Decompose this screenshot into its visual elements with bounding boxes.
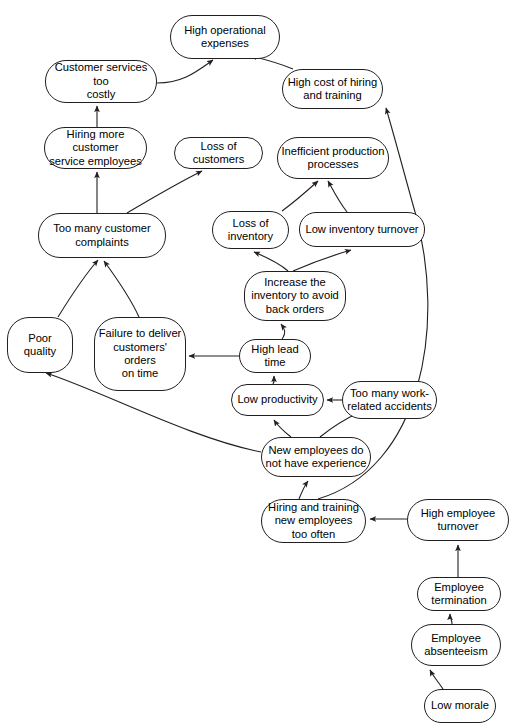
edge-absenteeism-to-termination (450, 614, 452, 624)
edge-low-morale-to-absenteeism (430, 670, 443, 689)
edge-low-productivity-to-high-lead-time (273, 376, 274, 384)
node-label: Low productivity (237, 393, 317, 406)
node-label: Poor quality (11, 332, 69, 359)
node-poor-quality[interactable]: Poor quality (7, 317, 73, 373)
node-label: Loss of customers (178, 140, 259, 167)
node-label: Low inventory turnover (305, 223, 418, 236)
edge-loss-inventory-to-inefficient (282, 181, 318, 211)
edge-poor-quality-to-complaints (58, 260, 98, 317)
edge-increase-inventory-to-loss-inventory (254, 252, 288, 271)
node-high-employee-turnover[interactable]: High employee turnover (407, 499, 509, 541)
node-label: Too many work- related accidents (347, 387, 432, 414)
node-high-operational-expenses[interactable]: High operational expenses (170, 15, 280, 59)
node-inefficient-production-processes[interactable]: Inefficient production processes (277, 137, 389, 179)
node-label: Inefficient production processes (281, 145, 384, 172)
node-label: High employee turnover (421, 507, 496, 534)
node-label: Low morale (431, 699, 489, 712)
node-low-morale[interactable]: Low morale (424, 689, 496, 723)
node-high-lead-time[interactable]: High lead time (239, 339, 311, 373)
node-label: Customer services too costly (49, 61, 153, 101)
node-increase-the-inventory-to-avoid-back-orders[interactable]: Increase the inventory to avoid back ord… (244, 271, 346, 321)
node-hiring-and-training-new-employees-too-often[interactable]: Hiring and training new employees too of… (261, 499, 366, 543)
edge-high-lead-time-to-increase-inventory (281, 324, 285, 339)
node-label: Hiring more customer service employees (48, 128, 143, 168)
node-loss-of-inventory[interactable]: Loss of inventory (212, 211, 289, 249)
node-label: High operational expenses (184, 24, 265, 51)
node-label: Loss of inventory (228, 217, 273, 244)
edge-new-employees-to-low-productivity (274, 420, 291, 437)
node-high-cost-of-hiring-and-training[interactable]: High cost of hiring and training (282, 69, 383, 109)
node-new-employees-do-not-have-experience[interactable]: New employees do not have experience (261, 437, 371, 477)
node-label: Hiring and training new employees too of… (268, 501, 359, 541)
node-label: High cost of hiring and training (288, 76, 378, 103)
node-customer-services-too-costly[interactable]: Customer services too costly (45, 60, 157, 103)
node-label: Employee absenteeism (424, 632, 487, 659)
edge-hiring-training-to-new-employees (299, 481, 308, 499)
node-label: Too many customer complaints (53, 222, 151, 249)
edge-customer-services-to-expenses (157, 60, 213, 83)
node-low-inventory-turnover[interactable]: Low inventory turnover (299, 212, 425, 247)
node-label: High lead time (251, 343, 298, 370)
node-hiring-more-customer-service-employees[interactable]: Hiring more customer service employees (44, 127, 147, 169)
node-employee-absenteeism[interactable]: Employee absenteeism (411, 624, 501, 666)
node-too-many-customer-complaints[interactable]: Too many customer complaints (38, 213, 166, 258)
node-too-many-work-related-accidents[interactable]: Too many work- related accidents (342, 381, 437, 419)
node-employee-termination[interactable]: Employee termination (417, 577, 501, 611)
edge-low-turnover-to-inefficient (328, 181, 347, 212)
node-label: Increase the inventory to avoid back ord… (251, 276, 339, 316)
edge-complaints-to-loss-of-customers (127, 171, 202, 213)
node-low-productivity[interactable]: Low productivity (231, 384, 324, 416)
node-label: Failure to deliver customers' orders on … (98, 327, 182, 381)
node-label: New employees do not have experience (266, 444, 367, 471)
edge-increase-inventory-to-low-turnover (293, 250, 351, 271)
node-loss-of-customers[interactable]: Loss of customers (174, 137, 263, 169)
node-label: Employee termination (431, 581, 486, 608)
node-failure-to-deliver-customers-orders-on-time[interactable]: Failure to deliver customers' orders on … (94, 317, 186, 391)
edge-failure-deliver-to-complaints (104, 261, 139, 317)
causal-loop-diagram: High operational expensesCustomer servic… (0, 0, 517, 728)
